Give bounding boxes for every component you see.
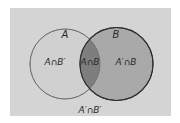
region-neither-label: A′∩B′ [77,105,101,115]
region-intersection-label: A∩B [80,57,100,67]
venn-diagram: A B A∩B′ A∩B A′∩B A′∩B′ [0,0,180,123]
set-b-label: B [113,29,120,40]
region-b-only-label: A′∩B [115,57,137,67]
set-a-label: A [61,29,69,40]
region-a-only-label: A∩B′ [44,57,66,67]
